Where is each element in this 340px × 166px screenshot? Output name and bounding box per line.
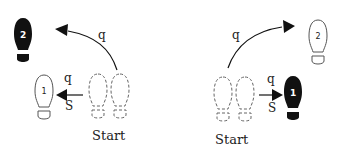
shoe-1-outline-icon: 1 xyxy=(35,75,53,119)
arrow-to-step-2-icon xyxy=(68,31,117,70)
timing-label-step-1-top: q xyxy=(267,73,275,85)
right-panel-drawing: 2 1 xyxy=(170,0,340,166)
svg-text:2: 2 xyxy=(20,30,26,40)
right-panel: 2 1 q q S Start xyxy=(170,0,340,166)
shoe-2-outline-icon: 2 xyxy=(309,20,327,64)
start-label: Start xyxy=(215,133,248,146)
start-label: Start xyxy=(92,129,125,142)
timing-label-step-1-top: q xyxy=(64,72,72,84)
timing-label-step-1-bottom: S xyxy=(268,102,276,114)
timing-label-step-1-bottom: S xyxy=(65,100,73,112)
svg-text:2: 2 xyxy=(315,32,320,41)
start-left-foot-icon xyxy=(214,77,232,121)
left-panel-drawing: 2 1 xyxy=(0,0,170,166)
start-left-foot-icon xyxy=(89,74,107,118)
start-right-foot-icon xyxy=(111,74,129,118)
timing-label-step-2: q xyxy=(232,29,240,41)
start-right-foot-icon xyxy=(236,77,254,121)
shoe-1-filled-icon: 1 xyxy=(284,76,302,120)
shoe-2-filled-icon: 2 xyxy=(14,18,32,62)
timing-label-step-2: q xyxy=(98,29,106,41)
svg-text:1: 1 xyxy=(41,87,46,96)
left-panel: 2 1 q q S Start xyxy=(0,0,170,166)
svg-text:1: 1 xyxy=(290,88,296,98)
